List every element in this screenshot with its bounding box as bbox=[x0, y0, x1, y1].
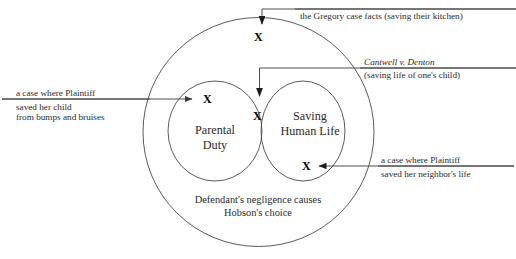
universe-label-line1: Defendant's negligence causes bbox=[168, 194, 348, 207]
set-label-saving-human-life-line1: Saving bbox=[272, 109, 348, 124]
annotation-saved-child-line3: from bumps and bruises bbox=[16, 112, 105, 123]
annotation-saved-child-line1: a case where Plaintiff bbox=[16, 88, 95, 99]
set-label-saving-human-life-line2: Human Life bbox=[272, 124, 348, 139]
diagram-canvas: X X X X Parental Duty Saving Human Life … bbox=[0, 0, 516, 259]
set-label-parental-duty-line1: Parental bbox=[180, 123, 250, 138]
marker-neighbor-x: X bbox=[302, 159, 311, 174]
universe-label-line2: Hobson's choice bbox=[168, 207, 348, 220]
annotation-cantwell-subtitle: (saving life of one's child) bbox=[364, 70, 460, 81]
set-label-parental-duty-line2: Duty bbox=[180, 138, 250, 153]
annotation-saved-neighbor-line1: a case where Plaintiff bbox=[381, 155, 460, 166]
annotation-cantwell-title: Cantwell v. Denton bbox=[364, 57, 435, 68]
annotation-gregory-case: the Gregory case facts (saving their kit… bbox=[300, 11, 463, 22]
marker-child-bumps-x: X bbox=[203, 92, 212, 107]
marker-gregory-x: X bbox=[254, 30, 263, 45]
set-label-parental-duty: Parental Duty bbox=[180, 123, 250, 153]
set-label-saving-human-life: Saving Human Life bbox=[272, 109, 348, 139]
annotation-saved-neighbor-line2: saved her neighbor's life bbox=[381, 169, 471, 180]
marker-cantwell-x: X bbox=[253, 109, 262, 124]
universe-label: Defendant's negligence causes Hobson's c… bbox=[168, 194, 348, 219]
